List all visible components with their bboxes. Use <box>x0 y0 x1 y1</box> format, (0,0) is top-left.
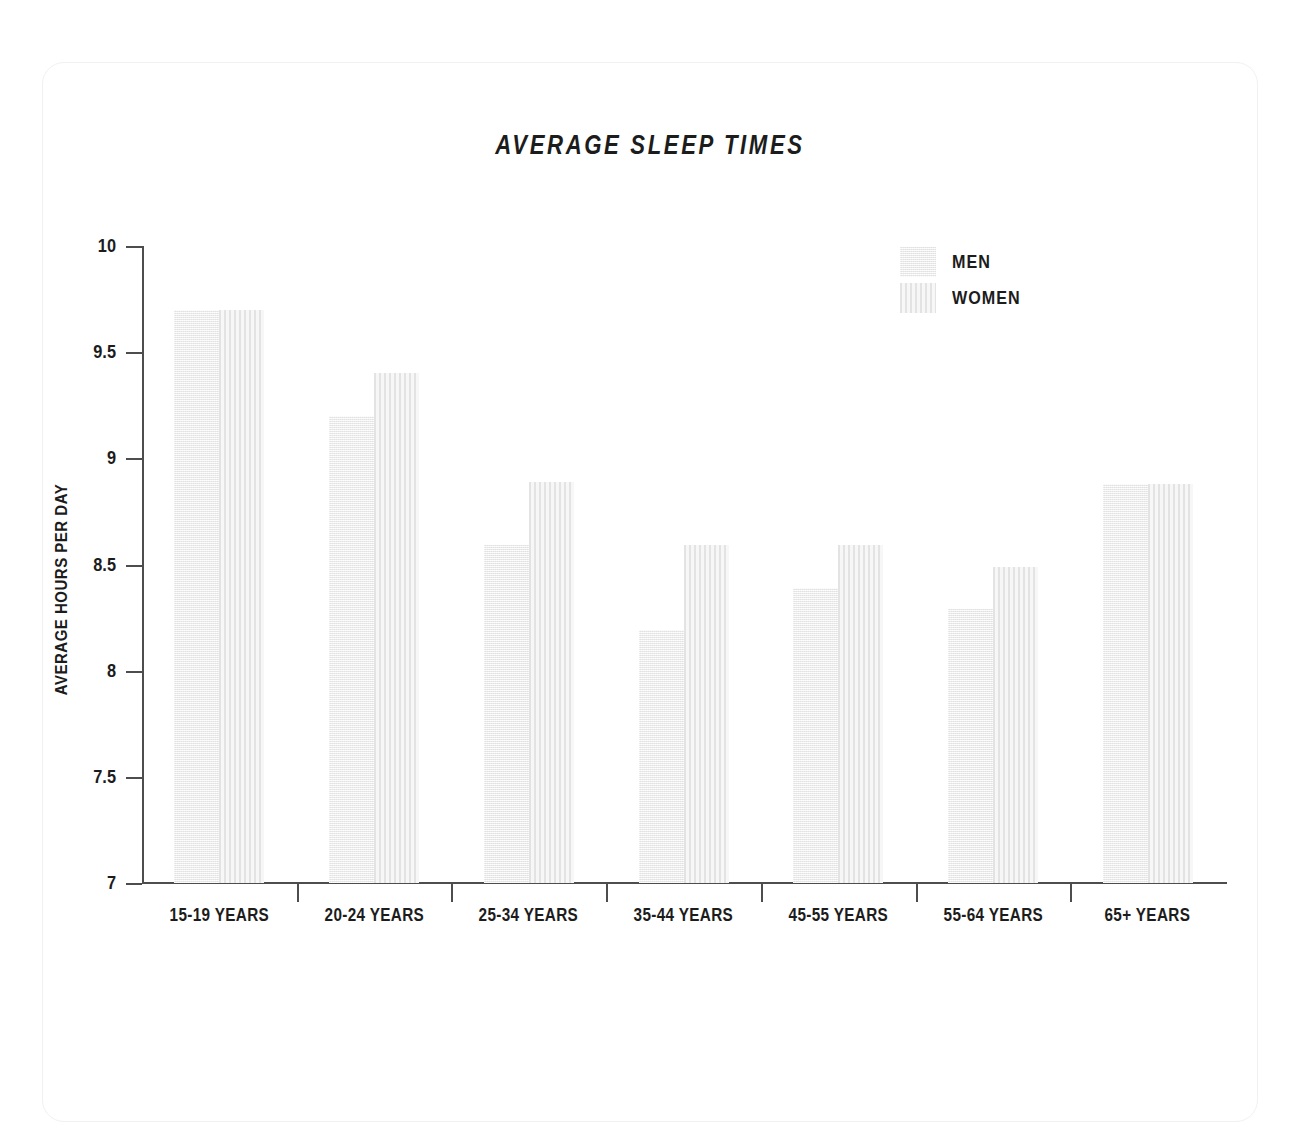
bar-men-1 <box>329 416 374 883</box>
legend-item-label: MEN <box>952 251 991 273</box>
y-axis-tick <box>126 246 142 248</box>
bar-women-6 <box>1148 484 1193 883</box>
y-axis-tick <box>126 671 142 673</box>
x-axis-separator <box>1070 884 1072 902</box>
bar-men-0 <box>174 310 219 883</box>
x-axis-label: 35-44 YEARS <box>618 905 749 926</box>
x-axis-label: 15-19 YEARS <box>154 905 285 926</box>
bar-men-2 <box>484 545 529 883</box>
chart-legend: MENWOMEN <box>900 244 1033 316</box>
x-axis-separator <box>916 884 918 902</box>
y-axis-tick-label: 7 <box>16 872 116 894</box>
x-axis-separator <box>297 884 299 902</box>
bar-women-2 <box>529 482 574 883</box>
bar-women-0 <box>219 310 264 883</box>
y-axis-tick-label: 9 <box>16 447 116 469</box>
y-axis-tick <box>126 883 142 885</box>
y-axis-tick-label: 8 <box>16 660 116 682</box>
x-axis-separator <box>761 884 763 902</box>
x-axis-label: 45-55 YEARS <box>772 905 903 926</box>
page-title: AVERAGE SLEEP TIMES <box>117 130 1183 161</box>
bar-men-5 <box>948 609 993 883</box>
bar-women-1 <box>374 373 419 883</box>
legend-item-women[interactable]: WOMEN <box>900 280 1033 316</box>
x-axis-label: 55-64 YEARS <box>927 905 1058 926</box>
y-axis-tick-label: 8.5 <box>16 554 116 576</box>
plot-area <box>142 246 1225 883</box>
x-axis-label: 25-34 YEARS <box>463 905 594 926</box>
y-axis-tick-label: 10 <box>16 235 116 257</box>
bar-men-6 <box>1103 484 1148 883</box>
x-axis-label: 20-24 YEARS <box>308 905 439 926</box>
y-axis-tick <box>126 565 142 567</box>
legend-item-label: WOMEN <box>952 287 1021 309</box>
x-axis-separator <box>606 884 608 902</box>
legend-item-men[interactable]: MEN <box>900 244 1033 280</box>
bar-women-3 <box>684 545 729 883</box>
bar-women-4 <box>838 545 883 883</box>
x-axis-label: 65+ YEARS <box>1082 905 1213 926</box>
x-axis-separator <box>451 884 453 902</box>
y-axis-tick <box>126 352 142 354</box>
y-axis-tick-label: 9.5 <box>16 341 116 363</box>
legend-swatch-icon-women <box>900 283 936 313</box>
legend-swatch-icon-men <box>900 247 936 277</box>
bar-men-4 <box>793 588 838 883</box>
bar-men-3 <box>639 630 684 883</box>
y-axis-tick <box>126 458 142 460</box>
y-axis-tick <box>126 777 142 779</box>
y-axis-tick-label: 7.5 <box>16 766 116 788</box>
bar-women-5 <box>993 567 1038 883</box>
